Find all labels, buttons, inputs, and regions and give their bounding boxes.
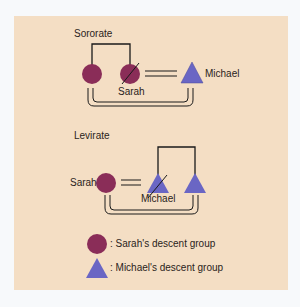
sororate-michael-label: Michael [205,68,239,79]
legend-circle-label: : Sarah's descent group [110,238,215,249]
legend-circle-icon [87,234,107,254]
levirate-sarah-label: Sarah [70,177,97,188]
kinship-diagram [0,0,300,307]
legend-triangle-label: : Michael's descent group [110,262,223,273]
sororate-sarah-label: Sarah [118,86,145,97]
sister-circle [82,64,102,84]
panel-top-bg [14,16,288,154]
sororate-title: Sororate [74,28,112,39]
sarah-circle [96,173,116,193]
levirate-michael-label: Michael [141,193,175,204]
levirate-title: Levirate [74,130,110,141]
